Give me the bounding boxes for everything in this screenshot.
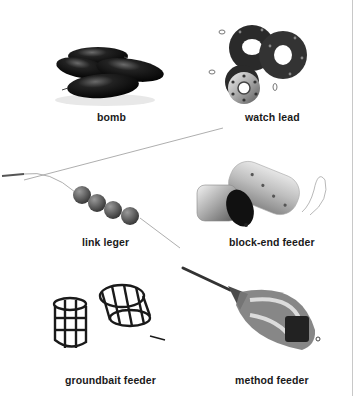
groundbait-feeder-icon xyxy=(54,285,165,348)
label-groundbait-feeder: groundbait feeder xyxy=(65,374,156,386)
divider-line xyxy=(24,128,223,180)
label-block-end-feeder: block-end feeder xyxy=(229,236,315,248)
method-feeder-icon xyxy=(183,268,320,350)
label-watch-lead: watch lead xyxy=(245,111,300,123)
bomb-weight-icon xyxy=(55,47,166,106)
label-bomb: bomb xyxy=(97,111,126,123)
illustrations xyxy=(0,0,358,401)
block-end-feeder-icon xyxy=(197,156,326,230)
label-link-leger: link leger xyxy=(82,236,129,248)
watch-lead-weight-icon xyxy=(209,25,307,104)
label-method-feeder: method feeder xyxy=(235,374,309,386)
